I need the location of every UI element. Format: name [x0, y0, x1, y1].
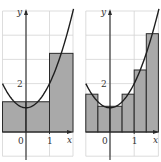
chart-canvas: yx012 yx012 — [0, 0, 161, 162]
approximation-rectangle — [26, 102, 50, 132]
riemann-sum-figure: yx012 yx012 — [0, 0, 161, 162]
y-axis-label: y — [100, 7, 107, 17]
x-tick-label: 1 — [47, 136, 53, 146]
y-axis-arrow-icon — [108, 9, 112, 15]
x-tick-label: 0 — [18, 136, 24, 146]
approximation-rectangle — [3, 102, 27, 132]
approximation-rectangle — [98, 106, 110, 132]
right-panel-midpoint-n6: yx012 — [86, 7, 159, 160]
y-tick-label: 2 — [101, 79, 107, 89]
y-axis-label: y — [16, 7, 23, 17]
rectangles — [3, 53, 74, 132]
x-axis-label: x — [153, 135, 158, 145]
left-panel-midpoint-n3: yx012 — [3, 7, 74, 160]
approximation-rectangle — [110, 106, 122, 132]
x-axis-label: x — [67, 135, 72, 145]
approximation-rectangle — [50, 53, 74, 132]
x-tick-label: 1 — [132, 136, 138, 146]
x-tick-label: 0 — [102, 136, 108, 146]
y-axis-arrow-icon — [24, 9, 28, 15]
y-tick-label: 2 — [17, 79, 23, 89]
